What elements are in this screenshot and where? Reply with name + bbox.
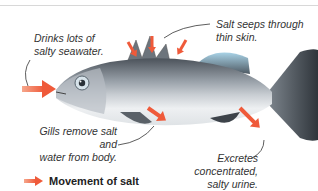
dorsal-fin [128, 36, 170, 62]
label-drinks: Drinks lots of salty seawater. [34, 32, 104, 58]
tail-fin [268, 49, 318, 140]
legend: Movement of salt [24, 175, 139, 187]
label-gills: Gills remove salt and water from body. [22, 125, 117, 164]
label-skin: Salt seeps through thin skin. [216, 18, 304, 44]
arrow-right-icon [24, 176, 44, 186]
label-excretes: Excretes concentrated, salty urine. [188, 152, 258, 191]
fish-head [56, 68, 106, 114]
legend-label: Movement of salt [49, 175, 139, 187]
